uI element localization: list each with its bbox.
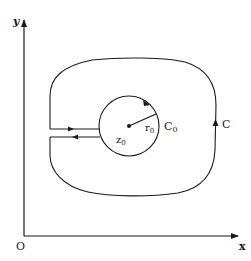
outer-contour-c	[50, 58, 216, 196]
inner-circle-label: C0	[164, 120, 178, 134]
radius-label: r0	[145, 122, 154, 135]
contour-diagram: y x O r0 C0 z0 C	[0, 0, 251, 261]
radius-line-r0	[129, 114, 156, 126]
arrow-right-icon	[68, 127, 74, 132]
axes	[24, 20, 238, 236]
y-axis-label: y	[12, 15, 21, 28]
arrow-left-icon	[72, 135, 78, 140]
x-axis-label: x	[239, 240, 246, 253]
arrow-up-icon	[213, 119, 219, 126]
center-point-label: z0	[116, 134, 126, 147]
outer-contour-label: C	[222, 118, 230, 131]
origin-label: O	[16, 240, 25, 253]
